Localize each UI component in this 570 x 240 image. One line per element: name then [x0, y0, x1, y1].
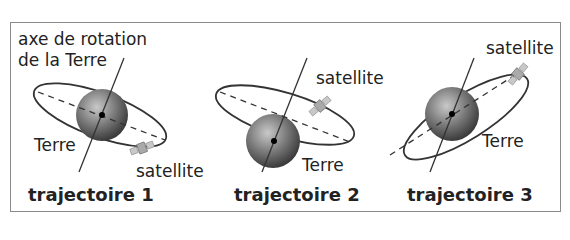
trajectory-3-figure	[390, 58, 539, 174]
satellite-icon	[129, 139, 155, 157]
axis-label-line1: axe de rotation	[18, 31, 147, 48]
trajectory-1-title: trajectoire 1	[28, 186, 154, 204]
satellite-label: satellite	[486, 40, 554, 57]
satellite-icon	[308, 94, 333, 117]
axis-label-line2: de la Terre	[18, 52, 107, 69]
earth-label: Terre	[482, 133, 524, 150]
earth-label: Terre	[302, 157, 344, 174]
trajectory-2-title: trajectoire 2	[234, 186, 360, 204]
satellite-icon	[506, 62, 529, 87]
satellite-label: satellite	[316, 70, 384, 87]
earth-label: Terre	[34, 137, 76, 154]
satellite-label: satellite	[136, 163, 204, 180]
trajectory-3-title: trajectoire 3	[407, 186, 533, 204]
